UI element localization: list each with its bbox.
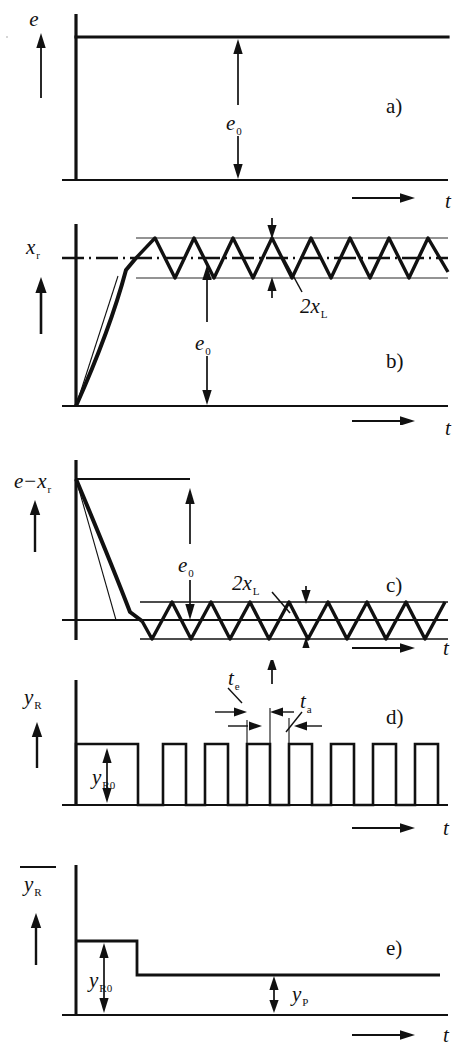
e0-label: e0 (226, 111, 242, 137)
panel-a-plot: e t e0 a) (0, 0, 462, 210)
y-axis-arrow-head (30, 500, 40, 515)
y-axis-arrow-head (32, 722, 42, 737)
y-axis-arrow-head (35, 277, 46, 293)
yR0-label: yR0 (90, 765, 116, 791)
te-arrow-left-head (234, 708, 247, 717)
panel-a-x-label: t (445, 189, 452, 210)
y-axis-arrow-head (31, 913, 41, 928)
panel-d-plot: yR0 te ta yR d) t (0, 660, 462, 850)
panel-b-y-label: xr (25, 235, 40, 261)
yP-label: yP (290, 982, 308, 1008)
2xL-label: 2xL (232, 571, 260, 597)
panel-d-y-label: yR (22, 685, 42, 711)
panel-b-x-label: t (445, 418, 452, 440)
panel-a: e t e0 a) (0, 0, 462, 210)
panel-c-bottom-arrow-head (267, 660, 276, 670)
panel-e-letter: e) (386, 936, 402, 960)
e0-arrow-upper-head (185, 488, 194, 504)
ta-leader-line (286, 712, 302, 732)
e0-arrow-upper-head (233, 39, 242, 54)
e0-label: e0 (178, 553, 194, 579)
panel-c: e0 2xL e−xr c) (0, 440, 462, 648)
panel-b-letter: b) (386, 349, 404, 373)
panel-d-x-label: t (443, 816, 450, 840)
panel-d: yR0 te ta yR d) t (0, 660, 462, 850)
x-axis-arrow-head (400, 823, 415, 832)
panel-c-x-axis-arrow-head (400, 643, 415, 652)
panel-a-y-label: e (29, 7, 38, 31)
panel-c-x-label-wrap: t (0, 636, 462, 660)
yP-arrow-down-head (269, 1000, 278, 1013)
ta-label: ta (300, 689, 312, 715)
y-axis-arrow-head (36, 33, 45, 48)
yR0-arrow-up-head (102, 748, 111, 763)
panel-c-plot: e0 2xL e−xr c) (0, 440, 462, 648)
panel-c-x-label: t (443, 636, 450, 660)
signal-pulse-train (76, 744, 438, 805)
yR0-label: yR0 (87, 968, 113, 994)
panel-b-plot: 2xL e0 xr b) (0, 210, 462, 425)
x-axis-arrow-head (400, 1030, 415, 1039)
e0-label: e0 (195, 331, 211, 357)
panel-e: yR0 yP yR e) t (0, 853, 462, 1053)
band-top-arrow-head (267, 225, 276, 239)
panel-e-y-label: yR (22, 872, 42, 898)
panel-c-letter: c) (386, 573, 402, 597)
signal-decay (76, 479, 142, 621)
signal-ramp (76, 258, 136, 406)
panel-b: 2xL e0 xr b) (0, 210, 462, 425)
figure-root: e t e0 a) (0, 0, 462, 1053)
te-arrow-right-head (270, 708, 283, 717)
x-axis-arrow-head (400, 193, 415, 202)
te-label: te (228, 666, 240, 692)
band-bottom-arrow-head (267, 277, 276, 291)
te-arrow-inner-head (249, 722, 262, 731)
decay-tangent-line (76, 479, 116, 620)
panel-c-y-label: e−xr (14, 469, 52, 495)
ta-arrow-head (294, 722, 307, 731)
panel-e-plot: yR0 yP yR e) t (0, 853, 462, 1053)
yP-arrow-up-head (269, 976, 278, 990)
panel-d-letter: d) (386, 705, 404, 729)
2xL-label: 2xL (300, 294, 328, 320)
panel-b-x-label-wrap: t (0, 418, 462, 440)
yR0-arrow-up-head (99, 943, 108, 958)
ramp-tangent-line (76, 276, 118, 406)
e0-arrow-lower-head (202, 390, 211, 405)
e0-arrow-lower-head (185, 604, 194, 620)
signal-sawtooth (136, 238, 448, 278)
panel-a-letter: a) (386, 94, 402, 118)
panel-e-x-label: t (443, 1023, 450, 1047)
yR0-arrow-down-head (99, 998, 108, 1013)
e0-arrow-lower-head (233, 164, 242, 179)
